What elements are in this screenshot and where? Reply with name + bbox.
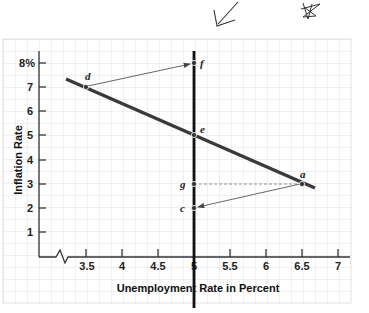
point-e	[191, 132, 196, 137]
x-tick-7: 7	[335, 260, 341, 272]
x-tick-4-5: 4.5	[150, 260, 165, 272]
x-tick-3-5: 3.5	[79, 260, 94, 272]
y-tick-7: 7	[27, 81, 33, 93]
y-tick-8: 8%	[19, 57, 35, 69]
point-d	[83, 84, 88, 89]
handwritten-star-icon	[301, 3, 320, 19]
point-a	[299, 181, 304, 186]
phillips-curve-chart: 8% 7 6 5 4 3 2 1 3.5 4 4.5 5 5.5 6 6.5 7…	[0, 0, 369, 313]
label-a: a	[300, 168, 306, 180]
x-tick-4: 4	[119, 260, 126, 272]
handwritten-check-arrow-icon	[214, 2, 238, 26]
label-e: e	[200, 123, 205, 135]
y-tick-2: 2	[27, 202, 33, 214]
x-tick-6: 6	[263, 260, 269, 272]
y-axis-title: Inflation Rate	[12, 125, 24, 195]
label-g: g	[179, 178, 186, 190]
y-tick-6: 6	[27, 105, 33, 117]
x-tick-5-5: 5.5	[222, 260, 237, 272]
label-d: d	[85, 70, 91, 82]
point-c	[191, 205, 196, 210]
x-axis-title: Unemployment Rate in Percent	[117, 282, 280, 294]
y-tick-4: 4	[27, 154, 34, 166]
y-tick-3: 3	[27, 178, 33, 190]
x-tick-6-5: 6.5	[294, 260, 309, 272]
point-g	[191, 181, 196, 186]
y-tick-1: 1	[27, 226, 33, 238]
point-f	[191, 60, 196, 65]
label-c: c	[180, 202, 185, 214]
y-tick-5: 5	[27, 129, 33, 141]
